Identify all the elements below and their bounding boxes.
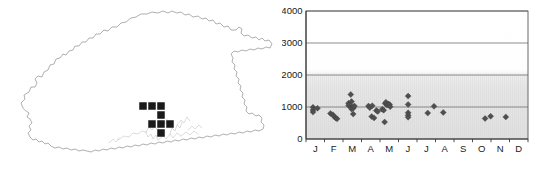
- distribution-map-panel: [0, 0, 280, 169]
- map-record-square: [157, 129, 165, 137]
- map-record-square: [148, 120, 156, 128]
- map-record-square: [139, 102, 147, 110]
- y-axis-tick-label: 1000: [282, 101, 303, 112]
- y-axis-tick-label-group: 01000200030004000: [282, 5, 303, 144]
- bhutan-map-svg: [0, 0, 280, 169]
- x-axis-tick-label: M: [385, 143, 393, 154]
- y-axis-tick-label: 4000: [282, 5, 303, 16]
- x-axis-tick-label: S: [460, 143, 466, 154]
- x-axis-tick-label: J: [405, 143, 410, 154]
- y-axis-tick-label: 3000: [282, 37, 303, 48]
- x-axis-tick-label: J: [424, 143, 429, 154]
- map-record-square: [157, 120, 165, 128]
- x-axis-tick-label: N: [497, 143, 504, 154]
- x-axis-tick-label: J: [313, 143, 318, 154]
- x-axis-tick-label-group: JFMAMJJASOND: [313, 143, 522, 154]
- x-axis-tick-label: O: [478, 143, 485, 154]
- figure-container: 01000200030004000 JFMAMJJASOND: [0, 0, 536, 169]
- map-record-square: [166, 120, 174, 128]
- map-record-square: [157, 111, 165, 119]
- map-record-square: [148, 102, 156, 110]
- y-axis-tick-label: 0: [297, 133, 302, 144]
- map-record-square: [157, 102, 165, 110]
- x-axis-tick-label: A: [368, 143, 375, 154]
- scatter-chart-svg: 01000200030004000 JFMAMJJASOND: [282, 0, 536, 169]
- x-axis-tick-label: A: [442, 143, 449, 154]
- x-axis-tick-label: M: [348, 143, 356, 154]
- x-axis-tick-label: D: [515, 143, 522, 154]
- y-axis-tick-label: 2000: [282, 69, 303, 80]
- x-axis-tick-label: F: [331, 143, 337, 154]
- altitude-month-scatter-panel: 01000200030004000 JFMAMJJASOND: [282, 0, 536, 169]
